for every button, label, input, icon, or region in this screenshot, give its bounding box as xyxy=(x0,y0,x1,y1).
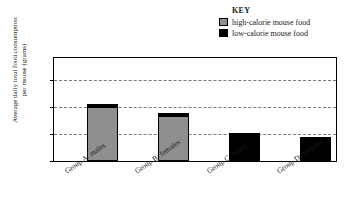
legend-swatch-low-calorie xyxy=(219,29,228,37)
legend-swatch-high-calorie xyxy=(219,18,228,26)
chart-legend: KEY high-calorie mouse food low-calorie … xyxy=(219,6,343,38)
y-axis-title: Average daily total food consumption per… xyxy=(8,9,32,131)
legend-item-low-calorie: low-calorie mouse food xyxy=(219,28,343,38)
legend-label-high-calorie: high-calorie mouse food xyxy=(232,18,310,27)
y-axis-title-line1: Average daily total food consumption xyxy=(11,17,20,123)
legend-label-low-calorie: low-calorie mouse food xyxy=(232,29,308,38)
y-axis-title-line2: per mouse (grams) xyxy=(20,44,29,96)
legend-title: KEY xyxy=(232,6,343,16)
bar-chart: KEY high-calorie mouse food low-calorie … xyxy=(0,0,345,215)
y-tick-0 xyxy=(50,161,54,162)
legend-item-high-calorie: high-calorie mouse food xyxy=(219,17,343,27)
